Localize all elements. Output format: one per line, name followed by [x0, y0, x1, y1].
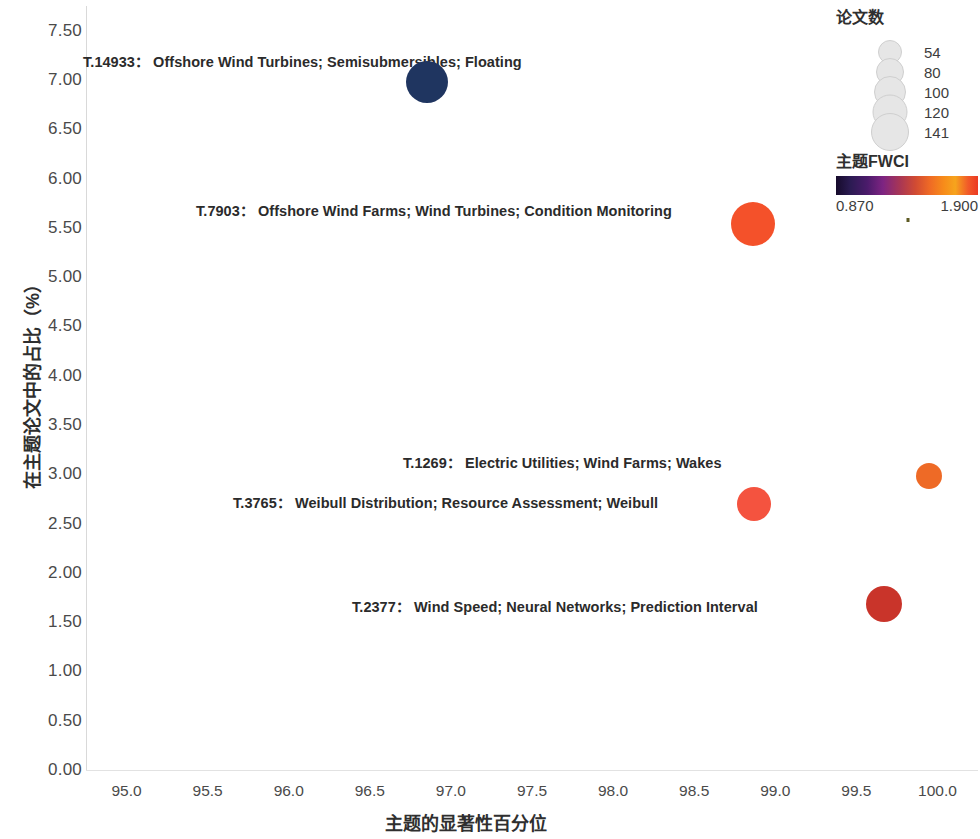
size-legend-value: 80 — [924, 64, 941, 81]
plot-area: T.14933： Offshore Wind Turbines; Semisub… — [0, 0, 980, 839]
color-legend-title: 主题FWCI — [836, 148, 980, 172]
point-label: T.14933： Offshore Wind Turbines; Semisub… — [83, 50, 522, 71]
size-legend-value: 120 — [924, 104, 949, 121]
colorbar-max-label: 1.900 — [940, 197, 978, 214]
point-label: T.2377： Wind Speed; Neural Networks; Pre… — [352, 595, 758, 616]
data-point-bubble[interactable] — [406, 61, 448, 103]
size-legend-swatch — [871, 113, 909, 151]
colorbar-min-label: 0.870 — [836, 197, 874, 214]
size-legend: 论文数 5480100120141 — [836, 4, 980, 140]
size-legend-items: 5480100120141 — [836, 32, 980, 140]
size-legend-value: 100 — [924, 84, 949, 101]
size-legend-value: 141 — [924, 124, 949, 141]
size-legend-value: 54 — [924, 44, 941, 61]
colorbar-gradient — [836, 176, 978, 195]
point-label: T.1269： Electric Utilities; Wind Farms; … — [403, 451, 722, 472]
data-point-bubble[interactable] — [866, 586, 902, 622]
scatter-chart-figure: 0.000.501.001.502.002.503.003.504.004.50… — [0, 0, 980, 839]
data-point-bubble[interactable] — [916, 463, 942, 489]
colorbar-tick-labels: 0.870 1.900 — [836, 197, 978, 219]
color-legend: 主题FWCI 0.870 1.900 — [836, 148, 980, 219]
data-point-bubble[interactable] — [737, 487, 771, 521]
size-legend-title: 论文数 — [836, 4, 980, 28]
data-point-bubble[interactable] — [731, 202, 775, 246]
point-label: T.3765： Weibull Distribution; Resource A… — [233, 491, 658, 512]
point-label: T.7903： Offshore Wind Farms; Wind Turbin… — [196, 199, 672, 220]
